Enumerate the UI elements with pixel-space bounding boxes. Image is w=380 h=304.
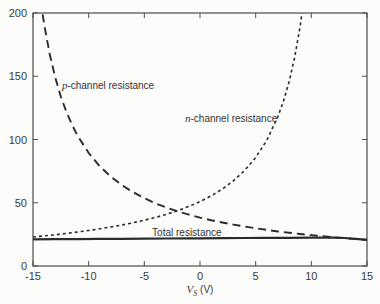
y-tick-label: 0 (21, 260, 27, 272)
y-tick-label: 200 (9, 7, 27, 19)
curve-label: Total resistance (152, 227, 222, 238)
x-axis-unit: (V) (197, 284, 213, 295)
x-tick-label: -10 (81, 270, 97, 282)
x-tick-label: 15 (361, 270, 373, 282)
x-tick-label: -5 (139, 270, 149, 282)
resistance-chart: -15-10-5051015050100150200p-channel resi… (0, 0, 380, 304)
y-tick-label: 50 (15, 197, 27, 209)
y-tick-label: 100 (9, 134, 27, 146)
total-curve (33, 238, 367, 240)
x-tick-label: -15 (25, 270, 41, 282)
curve-label: p-channel resistance (61, 79, 155, 91)
x-axis-label: VS (V) (165, 282, 235, 301)
y-tick-label: 150 (9, 70, 27, 82)
transmission-gate-resistance-figure: -15-10-5051015050100150200p-channel resi… (0, 0, 380, 304)
x-tick-label: 5 (253, 270, 259, 282)
x-tick-label: 0 (197, 270, 203, 282)
x-tick-label: 10 (305, 270, 317, 282)
curve-label: n-channel resistance (185, 112, 278, 124)
